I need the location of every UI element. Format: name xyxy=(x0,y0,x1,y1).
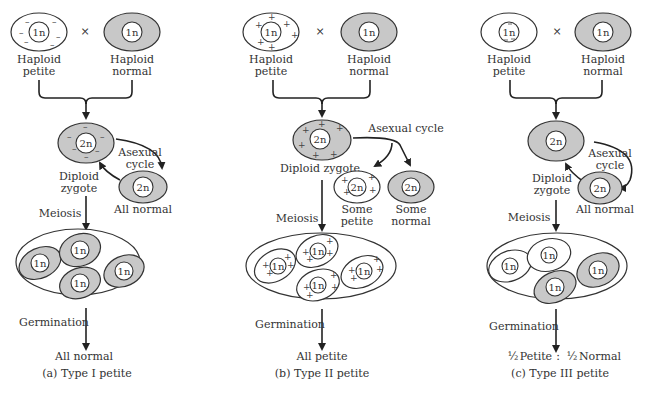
svg-text:1n: 1n xyxy=(549,282,562,293)
svg-text:+: + xyxy=(343,187,351,197)
svg-text:2n: 2n xyxy=(351,182,364,193)
svg-text:–: – xyxy=(24,37,29,47)
svg-text::: : xyxy=(556,350,560,363)
panel-type-1-petite: 1n –– –– –– × 1n Haploid petite Haploid … xyxy=(11,13,172,380)
haploid-petite-cell: 1n –– –– –– xyxy=(11,13,67,51)
svg-text:+: + xyxy=(312,150,320,160)
svg-text:–: – xyxy=(25,17,30,27)
asexual-result-cell: 2n xyxy=(119,171,167,203)
svg-text:+: + xyxy=(341,175,349,185)
petite-inheritance-diagram: 1n –– –– –– × 1n Haploid petite Haploid … xyxy=(0,0,646,394)
svg-text:1n: 1n xyxy=(543,250,556,261)
svg-text:–: – xyxy=(72,144,77,154)
haploid-normal-cell: 1n xyxy=(104,13,160,51)
svg-text:–: – xyxy=(83,122,88,132)
svg-text:2n: 2n xyxy=(594,183,607,194)
svg-text:+: + xyxy=(266,268,274,278)
svg-text:+: + xyxy=(369,185,377,195)
diploid-zygote-cell: 2n xyxy=(528,121,584,161)
svg-text:½: ½ xyxy=(508,350,519,363)
asexual-arrow-back xyxy=(100,163,120,180)
svg-text:–: – xyxy=(84,152,89,162)
svg-text:normal: normal xyxy=(349,65,389,78)
svg-text:+: + xyxy=(268,42,276,52)
label-asexual-cycle: Asexual cycle xyxy=(367,122,444,135)
svg-text:1n: 1n xyxy=(33,27,46,38)
svg-text:Germination: Germination xyxy=(255,318,325,331)
svg-text:cycle: cycle xyxy=(126,158,155,171)
svg-text:2n: 2n xyxy=(314,134,327,145)
svg-text:1n: 1n xyxy=(312,280,325,291)
svg-text:2n: 2n xyxy=(550,136,563,147)
tetrad-ascus: 1n 1n 1n 1n xyxy=(484,233,627,310)
caption-type-2: (b) Type II petite xyxy=(275,367,369,380)
svg-text:Meiosis: Meiosis xyxy=(508,211,551,224)
svg-text:1n: 1n xyxy=(74,245,87,256)
svg-text:+: + xyxy=(376,264,384,274)
svg-text:+: + xyxy=(287,260,295,270)
svg-text:–: – xyxy=(50,40,55,50)
svg-text:1n: 1n xyxy=(74,278,87,289)
svg-text:Meiosis: Meiosis xyxy=(276,212,319,225)
tetrad-ascus: 1n 1n 1n 1n xyxy=(14,228,150,304)
svg-text:1n: 1n xyxy=(504,261,517,272)
svg-text:+: + xyxy=(306,254,314,264)
svg-text:+: + xyxy=(336,123,344,133)
svg-text:+: + xyxy=(331,282,339,292)
label-germination: Germination xyxy=(19,316,89,329)
outcome-all-normal: All normal xyxy=(54,350,113,363)
svg-text:2n: 2n xyxy=(405,182,418,193)
haploid-petite-cell: 1n xyxy=(481,13,537,51)
svg-text:All normal: All normal xyxy=(575,203,634,216)
svg-text:–: – xyxy=(56,32,61,42)
merge-line-left xyxy=(39,80,86,104)
svg-text:+: + xyxy=(330,270,338,280)
svg-text:+: + xyxy=(302,125,310,135)
svg-text:+: + xyxy=(283,19,291,29)
some-petite-cell: 2n ++ ++ xyxy=(334,171,380,203)
svg-text:1n: 1n xyxy=(363,27,376,38)
svg-text:Petite: Petite xyxy=(520,350,552,363)
svg-text:petite: petite xyxy=(255,65,287,78)
caption-type-3: (c) Type III petite xyxy=(511,367,609,380)
outcome-all-petite: All petite xyxy=(296,350,348,363)
panel-type-2-petite: 1n ++ ++ ++ × 1n Haploid petite Haploid … xyxy=(243,12,444,380)
asexual-result-cell: 2n xyxy=(578,172,622,204)
svg-text:+: + xyxy=(268,12,276,22)
svg-text:normal: normal xyxy=(583,65,623,78)
svg-text:+: + xyxy=(330,149,338,159)
tetrad-ascus: 1n ++++ 1n ++++ 1n ++++ 1n ++++ xyxy=(246,228,396,307)
svg-text:zygote: zygote xyxy=(534,184,571,197)
svg-text:petite: petite xyxy=(23,65,55,78)
svg-text:1n: 1n xyxy=(358,266,371,277)
svg-text:–: – xyxy=(100,132,105,142)
diploid-zygote-cell: 2n –– –– –– xyxy=(58,122,114,163)
cross-symbol: × xyxy=(80,25,89,38)
svg-text:1n: 1n xyxy=(597,27,610,38)
diploid-zygote-cell: 2n ++ ++ ++ xyxy=(293,119,351,160)
svg-text:petite: petite xyxy=(493,65,525,78)
svg-text:1n: 1n xyxy=(126,27,139,38)
merge-line-right xyxy=(86,80,132,104)
svg-text:Normal: Normal xyxy=(579,350,621,363)
panel-type-3-petite: 1n × 1n Haploid petite Haploid normal 2n… xyxy=(481,13,634,380)
svg-text:+: + xyxy=(350,273,358,283)
svg-text:+: + xyxy=(326,248,334,258)
label-meiosis: Meiosis xyxy=(39,207,82,220)
svg-text:normal: normal xyxy=(112,65,152,78)
svg-text:petite: petite xyxy=(341,215,373,228)
svg-text:+: + xyxy=(318,119,326,129)
svg-text:1n: 1n xyxy=(265,27,278,38)
svg-text:+: + xyxy=(373,254,381,264)
haploid-normal-cell: 1n xyxy=(341,13,397,51)
svg-text:+: + xyxy=(257,37,265,47)
svg-text:1n: 1n xyxy=(118,266,131,277)
svg-text:1n: 1n xyxy=(592,265,605,276)
svg-text:2n: 2n xyxy=(80,138,93,149)
svg-text:+: + xyxy=(255,20,263,30)
svg-text:–: – xyxy=(67,132,72,142)
svg-text:1n: 1n xyxy=(272,261,285,272)
svg-text:+: + xyxy=(306,290,314,300)
svg-text:–: – xyxy=(95,146,100,156)
label-all-normal: All normal xyxy=(113,203,172,216)
